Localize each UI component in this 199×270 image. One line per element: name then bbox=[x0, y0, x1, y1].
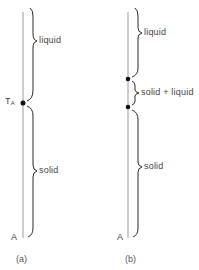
melting-point-label-a: TA bbox=[5, 97, 15, 106]
melting-point-dot-a bbox=[21, 101, 26, 106]
diagram-canvas bbox=[0, 0, 199, 270]
caption-b: (b) bbox=[125, 255, 136, 264]
caption-a: (a) bbox=[16, 255, 27, 264]
brace-solid-a bbox=[27, 106, 37, 237]
brace-solid-b bbox=[132, 110, 142, 237]
region-label-solid-a: solid bbox=[39, 166, 59, 175]
region-label-solid-b: solid bbox=[144, 162, 164, 171]
brace-solid-liquid-b bbox=[132, 81, 139, 105]
region-label-liquid-a: liquid bbox=[39, 36, 61, 45]
point-label-sub: A bbox=[11, 100, 15, 106]
axis-label-b: A bbox=[117, 233, 123, 242]
liquidus-dot-b bbox=[126, 77, 131, 82]
solidus-dot-b bbox=[126, 105, 131, 110]
axis-label-a: A bbox=[11, 233, 17, 242]
brace-liquid-b bbox=[132, 8, 142, 77]
region-label-liquid-b: liquid bbox=[144, 28, 166, 37]
region-label-solid-liquid-b: solid + liquid bbox=[141, 88, 194, 97]
brace-liquid-a bbox=[27, 8, 37, 101]
